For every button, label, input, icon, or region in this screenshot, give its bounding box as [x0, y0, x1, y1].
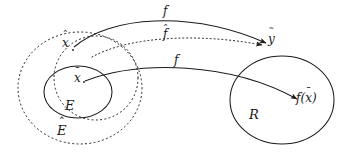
arrow-label-f-hat: ˆf [163, 28, 167, 40]
region-label-r: R [249, 108, 259, 121]
region-label-e: E [65, 99, 75, 112]
f-of-x-bar-close-paren: ) [312, 91, 317, 105]
point-label-f-of-x-bar: f( ¯x ) [296, 92, 317, 104]
region-e-hat-boundary [18, 32, 142, 144]
region-label-e-hat: ˆE [57, 124, 67, 137]
point-x-bar-dot [83, 81, 85, 83]
point-x-hat-dot [72, 49, 74, 51]
arrow-f-top-path [74, 21, 266, 47]
hat-accent-icon: ˆ [59, 117, 65, 129]
point-label-x-bar: ¯x [74, 72, 81, 84]
arrow-label-f-bottom: f [174, 54, 178, 66]
arrow-f-bottom-path [85, 68, 297, 99]
tilde-accent-icon: ˜ [269, 27, 275, 38]
arrow-label-f-top: f [163, 5, 167, 17]
point-label-y-tilde: ˜y [268, 33, 275, 45]
hat-accent-icon: ˆ [163, 25, 168, 36]
diagram-svg [0, 0, 342, 160]
bar-accent-icon: ¯ [306, 86, 312, 97]
point-label-x-hat: ˆx [62, 37, 69, 49]
region-r-boundary [230, 56, 334, 144]
hat-accent-icon: ˆ [63, 30, 69, 41]
figure-canvas: ˆx ¯x E ˆE R f ˆf f ˜y f( ¯x ) [0, 0, 342, 160]
bar-accent-icon: ¯ [75, 66, 81, 77]
